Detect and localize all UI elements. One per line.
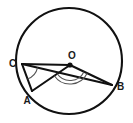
label-point-c: C xyxy=(9,58,16,69)
radius-o-c xyxy=(22,64,70,65)
inscribed-angle-arc-at-c xyxy=(28,68,38,79)
label-point-o: O xyxy=(68,50,76,61)
main-circle xyxy=(16,8,122,114)
radius-o-b xyxy=(70,65,112,85)
geometry-canvas: O C A B xyxy=(0,0,133,123)
circle-geometry-figure: O C A B xyxy=(0,0,133,123)
label-point-a: A xyxy=(23,95,30,106)
label-point-b: B xyxy=(117,81,124,92)
center-point-dot xyxy=(67,62,72,67)
